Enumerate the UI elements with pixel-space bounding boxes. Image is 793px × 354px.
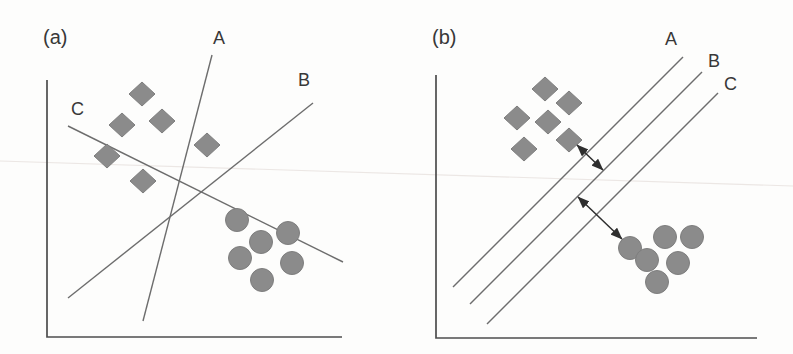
scan-artifact-line <box>0 161 793 186</box>
panel-b: ABC(b) <box>432 26 757 338</box>
line-label-b-a: A <box>665 29 677 49</box>
diamond-marker <box>556 128 582 152</box>
diamond-marker <box>535 110 561 134</box>
panel-label-b: (b) <box>432 26 456 48</box>
figure-svg: ABC(a)ABC(b) <box>0 0 793 354</box>
line-label-a-c: C <box>71 99 84 119</box>
circle-marker <box>250 231 273 254</box>
circle-marker <box>277 222 300 245</box>
circle-marker <box>681 226 704 249</box>
panel-label-a: (a) <box>43 26 67 48</box>
diamond-marker <box>194 133 220 157</box>
diamond-marker <box>511 137 537 161</box>
diamond-marker <box>130 169 156 193</box>
separator-line-b-c <box>487 93 718 324</box>
circle-marker <box>654 226 677 249</box>
circle-marker <box>251 269 274 292</box>
panel-a: ABC(a) <box>43 26 343 337</box>
line-label-b-c: C <box>724 74 737 94</box>
separator-line-b-b <box>470 72 702 304</box>
diamond-marker <box>556 91 582 115</box>
circle-marker <box>636 249 659 272</box>
panel-a-axes <box>47 80 342 337</box>
panel-b-axes <box>436 75 757 338</box>
margin-arrow-upper <box>577 145 603 170</box>
circle-marker <box>646 271 669 294</box>
diamond-marker <box>129 82 155 106</box>
diamond-marker <box>504 106 530 130</box>
line-label-a-a: A <box>213 28 225 48</box>
diamond-marker <box>532 77 558 101</box>
figure-container: ABC(a)ABC(b) <box>0 0 793 354</box>
diamond-marker <box>149 109 175 133</box>
line-label-a-b: B <box>298 70 310 90</box>
circle-marker <box>226 209 249 232</box>
circle-marker <box>229 247 252 270</box>
circle-marker <box>667 252 690 275</box>
separator-line-a-b <box>68 103 313 298</box>
diamond-marker <box>109 113 135 137</box>
line-label-b-b: B <box>708 51 720 71</box>
diagram-root: ABC(a)ABC(b) <box>0 26 793 338</box>
margin-arrow-lower <box>578 197 622 239</box>
circle-marker <box>281 252 304 275</box>
